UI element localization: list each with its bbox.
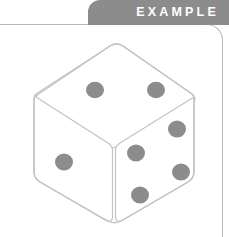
example-tab[interactable]: EXAMPLE bbox=[88, 0, 229, 25]
pip-right-3 bbox=[172, 163, 190, 180]
pip-right-1 bbox=[168, 120, 186, 137]
pip-top-2 bbox=[147, 82, 165, 99]
pip-right-2 bbox=[127, 144, 145, 161]
dice-svg bbox=[14, 30, 214, 230]
page-root: EXAMPLE bbox=[0, 0, 229, 237]
pip-right-4 bbox=[131, 186, 149, 203]
pip-left-1 bbox=[55, 153, 73, 170]
dice-illustration bbox=[14, 30, 214, 230]
example-tab-label: EXAMPLE bbox=[88, 4, 219, 20]
pip-top-1 bbox=[86, 82, 104, 99]
